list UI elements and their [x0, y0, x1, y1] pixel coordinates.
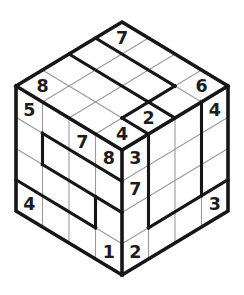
given-digit-top-3-3: 4 [116, 124, 128, 144]
given-digit-left-0-0: 5 [23, 100, 35, 120]
given-digit-left-0-3: 8 [103, 148, 115, 168]
puzzle-canvas: 786245784137423 [0, 0, 244, 295]
given-digit-left-0-2: 7 [76, 132, 88, 152]
given-digit-right-0-3: 4 [209, 100, 221, 120]
given-digit-top-0-3: 6 [195, 76, 207, 96]
given-digit-right-3-0: 2 [129, 242, 141, 262]
given-digit-top-2-3: 2 [142, 108, 154, 128]
given-digit-top-3-0: 8 [36, 76, 48, 96]
given-digit-top-0-0: 7 [116, 28, 128, 48]
given-digit-right-0-0: 3 [129, 148, 141, 168]
given-digit-right-1-0: 7 [129, 179, 141, 199]
given-digit-left-3-0: 4 [23, 194, 35, 214]
given-digit-left-3-3: 1 [103, 242, 115, 262]
given-digit-right-3-3: 3 [209, 194, 221, 214]
sudoku-cube-figure: 786245784137423 [0, 0, 244, 295]
